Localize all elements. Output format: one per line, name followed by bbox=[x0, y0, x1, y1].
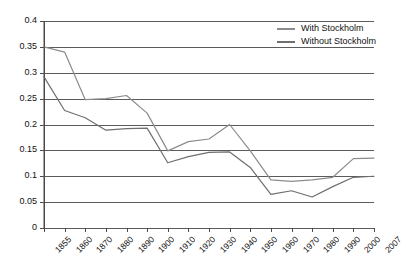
series-line-with-stockholm bbox=[44, 47, 374, 182]
legend-item-label: With Stockholm bbox=[301, 22, 364, 35]
legend-item-label: Without Stockholm bbox=[301, 35, 376, 48]
series-line-without-stockholm bbox=[44, 77, 374, 197]
legend-line-icon bbox=[277, 28, 295, 30]
legend-line-icon bbox=[277, 41, 295, 43]
